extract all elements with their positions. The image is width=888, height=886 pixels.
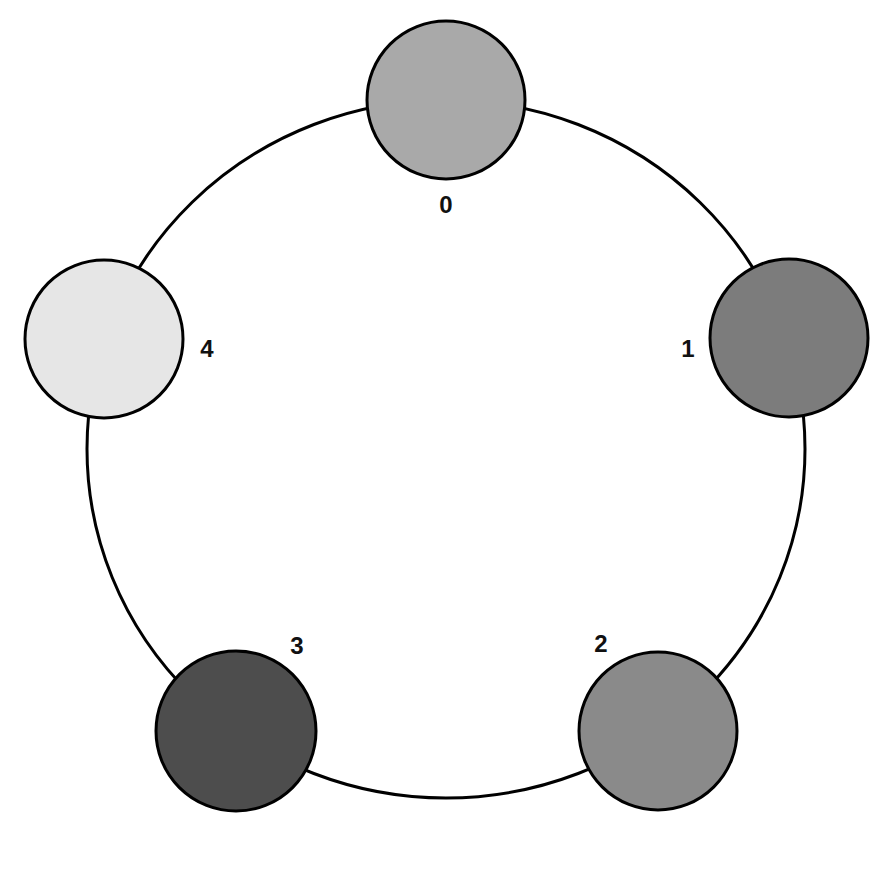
node-circle (710, 259, 868, 417)
node-circle (25, 260, 183, 418)
node-label: 0 (439, 191, 452, 218)
node-1: 1 (681, 259, 868, 417)
node-circle (367, 21, 525, 179)
nodes-layer: 01234 (25, 21, 868, 811)
node-label: 1 (681, 335, 694, 362)
node-circle (579, 652, 737, 810)
node-0: 0 (367, 21, 525, 218)
node-2: 2 (579, 630, 737, 810)
node-label: 3 (290, 632, 303, 659)
node-4: 4 (25, 260, 214, 418)
ring-diagram: 01234 (0, 0, 888, 886)
node-circle (156, 651, 316, 811)
node-3: 3 (156, 632, 316, 811)
node-label: 2 (594, 630, 607, 657)
node-label: 4 (200, 335, 214, 362)
